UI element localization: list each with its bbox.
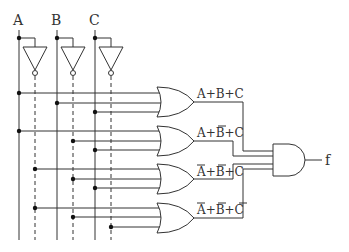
- inverter-c: [95, 38, 123, 76]
- input-label-c: C: [89, 12, 100, 28]
- input-label-a: A: [12, 12, 24, 28]
- inverter-bubble: [33, 71, 38, 76]
- or-to-and-wires: [194, 102, 273, 218]
- or-input-wires: [19, 93, 161, 227]
- output-label-f: f: [325, 152, 332, 168]
- junction-dot: [55, 36, 59, 40]
- or-gate-4-label: A+B+C: [196, 203, 244, 217]
- input-label-b: B: [51, 12, 61, 28]
- inverter-bubble: [71, 71, 76, 76]
- or-gate-4: [157, 203, 194, 233]
- and-gate: [273, 144, 305, 176]
- junction-dot: [17, 36, 21, 40]
- junction-dot: [93, 36, 97, 40]
- inverter-a: [19, 38, 47, 76]
- inverter-bubble: [109, 71, 114, 76]
- or-gate-1: [157, 87, 194, 117]
- or-gate-2-label: A+B+C: [196, 126, 244, 140]
- inverter-b: [57, 38, 85, 76]
- logic-circuit-diagram: A B C: [0, 0, 349, 252]
- or-gate-3-label: A+B+C: [196, 165, 244, 179]
- or-gate-3: [157, 164, 194, 194]
- or-gate-2: [157, 126, 194, 156]
- or-gate-1-label: A+B+C: [196, 87, 244, 101]
